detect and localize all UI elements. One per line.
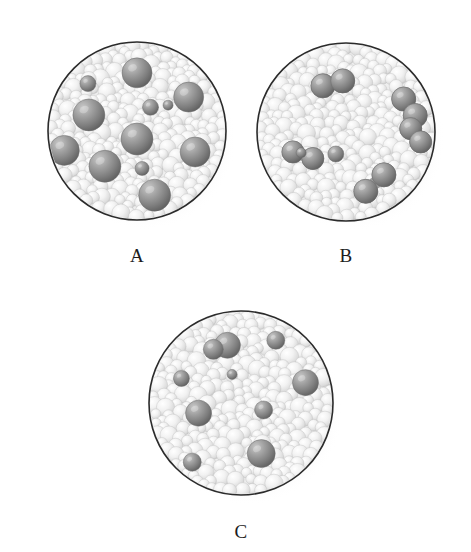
panel-a: A <box>37 31 237 271</box>
panel-c: C <box>138 300 344 546</box>
panel-b: B <box>246 32 446 272</box>
molecular-view-c <box>138 300 344 506</box>
panel-a-label: A <box>37 246 237 265</box>
molecular-view-b <box>246 32 446 232</box>
figure-root: A B C <box>0 0 471 552</box>
panel-c-label: C <box>138 522 344 541</box>
molecular-view-a <box>37 31 237 231</box>
panel-b-label: B <box>246 246 446 265</box>
